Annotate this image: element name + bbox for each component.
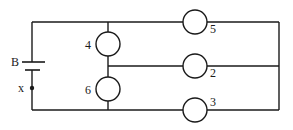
junction-dot-x (30, 86, 34, 90)
circuit-diagram: B x 4 6 5 2 3 (0, 0, 293, 130)
bulb-6-label: 6 (85, 83, 91, 97)
bulb-2-label: 2 (210, 66, 216, 80)
bulb-4-icon (96, 32, 120, 56)
switch-point-label: x (18, 81, 24, 95)
bulb-5-icon (183, 10, 207, 34)
circuit-svg: B x 4 6 5 2 3 (0, 0, 293, 130)
bulb-5-label: 5 (210, 22, 216, 36)
bulb-4-label: 4 (85, 38, 91, 52)
bulb-2-icon (183, 54, 207, 78)
battery-label: B (11, 55, 19, 69)
bulb-3-label: 3 (210, 95, 216, 109)
bulb-6-icon (96, 77, 120, 101)
bulb-3-icon (183, 98, 207, 122)
